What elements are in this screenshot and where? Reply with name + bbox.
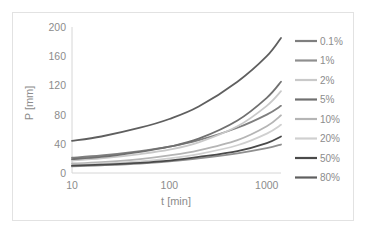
legend-label-2pct[interactable]: 2% — [320, 75, 335, 86]
series-line-0-1pct — [72, 106, 281, 158]
legend-label-20pct[interactable]: 20% — [320, 133, 340, 144]
x-axis-tick-labels: 101001000 — [66, 179, 278, 191]
legend-label-10pct[interactable]: 10% — [320, 114, 340, 125]
y-axis-tick-labels: 04080120160200 — [48, 21, 66, 179]
legend-label-0-1pct[interactable]: 0.1% — [320, 36, 343, 47]
series-lines — [72, 38, 281, 166]
y-tick-label: 80 — [54, 109, 66, 121]
chart-legend: 0.1%1%2%5%10%20%50%80% — [295, 36, 343, 184]
x-tick-label: 100 — [161, 179, 179, 191]
y-axis-title: P [mm] — [23, 86, 35, 121]
y-tick-label: 40 — [54, 138, 66, 150]
y-tick-label: 160 — [48, 50, 66, 62]
series-line-80pct — [72, 38, 281, 141]
x-axis-title: t [min] — [161, 195, 191, 207]
y-tick-label: 200 — [48, 21, 66, 33]
x-tick-label: 1000 — [255, 179, 279, 191]
y-tick-label: 0 — [60, 167, 66, 179]
chart-plot: 04080120160200 101001000 P [mm] t [min] … — [13, 13, 355, 222]
y-tick-label: 120 — [48, 79, 66, 91]
legend-label-1pct[interactable]: 1% — [320, 55, 335, 66]
x-tick-label: 10 — [66, 179, 78, 191]
series-line-2pct — [72, 91, 281, 160]
legend-label-50pct[interactable]: 50% — [320, 153, 340, 164]
legend-label-5pct[interactable]: 5% — [320, 94, 335, 105]
legend-label-80pct[interactable]: 80% — [320, 172, 340, 183]
chart-container: 04080120160200 101001000 P [mm] t [min] … — [12, 12, 354, 221]
